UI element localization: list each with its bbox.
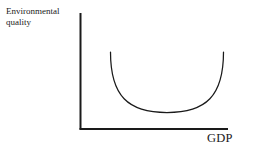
u-curve-group [111, 52, 224, 113]
u-curve-path [111, 52, 224, 113]
chart-figure: Environmental quality GDP [0, 0, 255, 151]
x-axis-label: GDP [207, 131, 233, 146]
chart-plot-svg [0, 0, 255, 151]
